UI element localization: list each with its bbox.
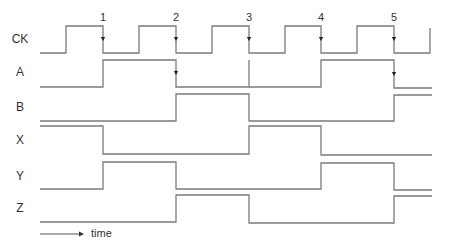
down-arrow-icon [392,37,396,41]
signal-label-z: Z [16,201,23,215]
waveform-z [40,195,432,223]
clock-edge-label-1: 1 [100,11,106,23]
waveform-ck [40,26,430,53]
down-arrow-icon [319,37,323,41]
signal-label-ck: CK [12,32,29,46]
arrow-right-icon [79,232,84,237]
waveform-b [40,94,432,121]
signal-label-x: X [16,133,24,147]
clock-edge-label-2: 2 [173,11,179,23]
clock-edge-label-3: 3 [246,11,252,23]
clock-edge-label-5: 5 [391,11,397,23]
down-arrow-icon [392,72,396,76]
time-label: time [91,227,112,239]
signal-label-b: B [16,100,24,114]
down-arrow-icon [174,71,178,75]
time-axis-arrow [40,232,84,237]
timing-diagram [0,0,454,252]
signal-label-y: Y [16,169,24,183]
down-arrow-icon [174,37,178,41]
waveform-y [40,162,432,190]
down-arrow-icon [247,37,251,41]
signal-label-a: A [16,65,24,79]
clock-edge-label-4: 4 [318,11,324,23]
down-arrow-icon [101,37,105,41]
waveform-x [40,126,432,155]
signal-waveforms [40,26,432,223]
waveform-a [40,60,432,88]
